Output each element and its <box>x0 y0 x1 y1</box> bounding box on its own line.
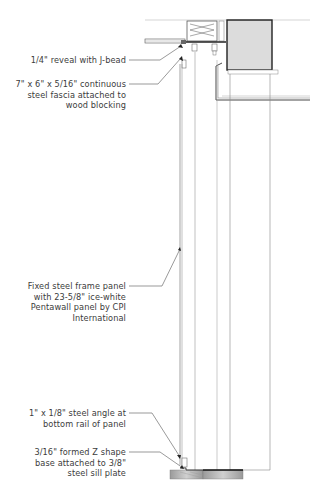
j-bead <box>181 40 186 44</box>
annotation-reveal: 1/4" reveal with J-bead <box>31 55 126 66</box>
panel-frame <box>180 52 270 470</box>
wood-blocking <box>187 21 224 41</box>
annotation-panel: Fixed steel frame panel with 23-5/8" ice… <box>28 281 126 323</box>
steel-beam <box>227 20 272 70</box>
annotation-base: 3/16" formed Z shape base attached to 3/… <box>34 447 126 479</box>
steel-angle <box>182 458 187 467</box>
leader-lines <box>129 44 184 469</box>
sill-plate <box>170 468 243 479</box>
annotation-fascia: 7" x 6" x 5/16" continuous steel fascia … <box>16 79 126 111</box>
annotation-angle: 1" x 1/8" steel angle at bottom rail of … <box>29 408 126 429</box>
fastener <box>192 44 197 51</box>
fastener <box>212 44 217 51</box>
